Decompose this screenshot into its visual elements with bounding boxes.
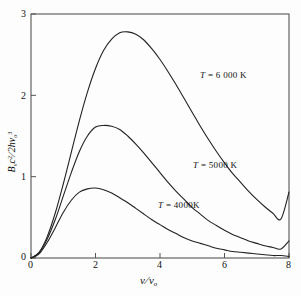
curve-5000k [31,125,289,258]
ytick-label-2: 2 [21,90,26,101]
curve-label-4000k-symbol: T [158,200,163,210]
curve-label-5000k-value: = 5000 K [201,160,237,170]
axes-frame [31,14,289,258]
curve-label-6000k: T = 6 000 K [200,70,247,80]
curve-label-4000k: T = 4000K [158,200,200,210]
y-axis-title: Bνc2/2hνo3 [6,132,17,173]
curve-label-4000k-value: = 4000K [166,200,200,210]
xtick-label-6: 6 [222,259,227,270]
curve-label-5000k: T = 5000 K [193,160,237,170]
plot-canvas [0,0,301,296]
axis-ticks [31,14,289,258]
ytick-label-0: 0 [21,251,26,262]
curve-label-6000k-value: = 6 000 K [208,70,247,80]
x-axis-title: ν/νo [140,274,157,287]
curve-label-6000k-symbol: T [200,70,205,80]
spectral-curves [31,32,289,258]
xtick-label-2: 2 [93,259,98,270]
xtick-label-0: 0 [28,259,33,270]
curve-4000k [31,188,289,258]
ytick-label-3: 3 [21,8,26,19]
xtick-label-4: 4 [157,259,162,270]
curve-label-5000k-symbol: T [193,160,198,170]
xtick-label-8: 8 [286,259,291,270]
blackbody-spectrum-figure: 0 2 4 6 8 0 1 2 3 Bνc2/2hνo3 ν/νo T = 6 … [0,0,301,296]
plot-frame [31,14,289,258]
y-axis-title-wrap: Bνc2/2hνo3 [2,112,22,192]
